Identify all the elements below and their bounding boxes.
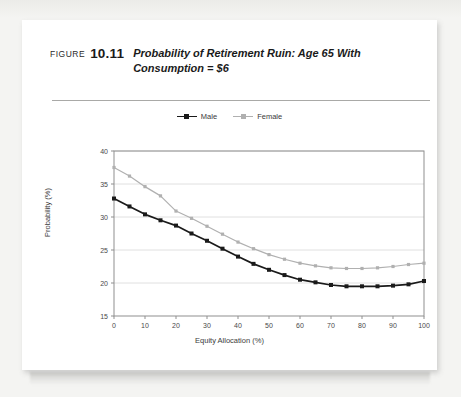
tick-label-y: 30 <box>100 214 108 221</box>
series-marker-male <box>422 279 426 283</box>
tick-label-x: 40 <box>234 322 242 329</box>
series-marker-male <box>143 212 147 216</box>
series-marker-female <box>298 262 301 265</box>
series-marker-male <box>252 262 256 266</box>
series-marker-female <box>329 266 332 269</box>
series-marker-male <box>128 204 132 208</box>
series-marker-male <box>236 255 240 259</box>
series-marker-female <box>236 240 239 243</box>
scan-bottom-shadow <box>30 372 430 385</box>
series-marker-male <box>360 284 364 288</box>
series-marker-female <box>159 194 162 197</box>
figure-card: FIGURE 10.11 Probability of Retirement R… <box>22 20 437 370</box>
series-marker-female <box>252 247 255 250</box>
series-marker-female <box>267 253 270 256</box>
series-marker-female <box>112 166 115 169</box>
chart-area: Probability (%) Equity Allocation (%) 15… <box>22 20 437 370</box>
series-marker-male <box>190 232 194 236</box>
series-marker-female <box>345 267 348 270</box>
series-marker-male <box>329 283 333 287</box>
series-marker-female <box>283 258 286 261</box>
series-marker-male <box>112 197 116 201</box>
tick-label-x: 60 <box>296 322 304 329</box>
tick-label-x: 50 <box>265 322 273 329</box>
tick-label-x: 20 <box>172 322 180 329</box>
series-marker-male <box>298 278 302 282</box>
tick-label-x: 90 <box>389 322 397 329</box>
series-marker-female <box>128 174 131 177</box>
series-marker-male <box>407 282 411 286</box>
series-marker-female <box>422 262 425 265</box>
series-marker-female <box>407 263 410 266</box>
scan-top-shadow <box>0 0 461 18</box>
series-marker-male <box>174 224 178 228</box>
series-marker-female <box>174 209 177 212</box>
tick-label-x: 70 <box>327 322 335 329</box>
tick-label-y: 25 <box>100 247 108 254</box>
line-chart: 1520253035400102030405060708090100 <box>22 20 437 370</box>
series-marker-female <box>190 217 193 220</box>
series-marker-female <box>143 185 146 188</box>
page-root: FIGURE 10.11 Probability of Retirement R… <box>0 0 461 397</box>
series-marker-female <box>314 264 317 267</box>
series-marker-male <box>205 239 209 243</box>
series-marker-male <box>391 284 395 288</box>
series-marker-female <box>391 265 394 268</box>
series-marker-female <box>376 266 379 269</box>
series-marker-male <box>283 273 287 277</box>
series-marker-female <box>221 233 224 236</box>
series-marker-male <box>221 247 225 251</box>
series-marker-male <box>376 284 380 288</box>
tick-label-y: 15 <box>100 313 108 320</box>
series-line-male <box>114 199 424 287</box>
series-marker-male <box>159 218 163 222</box>
tick-label-x: 30 <box>203 322 211 329</box>
tick-label-x: 80 <box>358 322 366 329</box>
series-marker-male <box>267 268 271 272</box>
tick-label-x: 10 <box>141 322 149 329</box>
series-marker-female <box>205 225 208 228</box>
tick-label-x: 100 <box>418 322 430 329</box>
tick-label-y: 40 <box>100 148 108 155</box>
series-marker-female <box>360 267 363 270</box>
tick-label-y: 20 <box>100 280 108 287</box>
tick-label-y: 35 <box>100 181 108 188</box>
tick-label-x: 0 <box>112 322 116 329</box>
series-marker-male <box>314 280 318 284</box>
plot-frame <box>114 151 424 316</box>
series-marker-male <box>345 284 349 288</box>
